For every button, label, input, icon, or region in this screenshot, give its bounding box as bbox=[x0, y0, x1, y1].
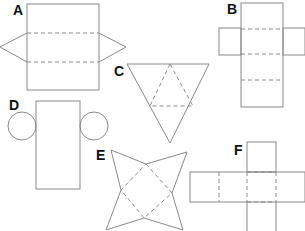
label-a: A bbox=[13, 2, 23, 18]
label-c: C bbox=[114, 63, 124, 79]
net-a: A bbox=[0, 2, 126, 90]
net-f: F bbox=[190, 142, 305, 231]
label-d: D bbox=[9, 97, 19, 113]
net-b: B bbox=[219, 1, 305, 107]
net-c: C bbox=[114, 63, 209, 143]
label-b: B bbox=[227, 1, 237, 17]
net-d: D bbox=[8, 97, 108, 189]
label-f: F bbox=[234, 142, 243, 158]
label-e: E bbox=[96, 147, 105, 163]
nets-diagram: A B C D E F bbox=[0, 0, 305, 231]
net-e: E bbox=[96, 147, 187, 230]
